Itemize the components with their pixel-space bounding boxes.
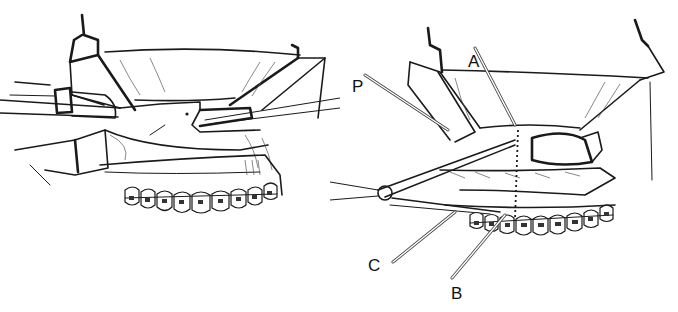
right-panel-left-retractor <box>408 28 480 142</box>
right-panel-maxilla-segments <box>440 132 615 208</box>
label-b: B <box>451 285 462 302</box>
saw-handpiece <box>0 82 120 118</box>
label-p: P <box>352 78 363 95</box>
right-panel-labeled-osteotomy <box>330 0 678 312</box>
label-a: A <box>468 53 479 70</box>
right-panel-right-retractor <box>580 20 664 180</box>
left-retractor <box>70 15 135 110</box>
maxilla-osteotomy <box>105 102 272 170</box>
cheek-retractor <box>15 130 108 185</box>
upper-soft-tissue <box>105 49 300 101</box>
label-c: C <box>368 257 380 274</box>
surgical-illustration: P A C B <box>0 0 678 312</box>
left-panel-drawing <box>0 0 340 312</box>
maxillary-teeth-with-brackets <box>125 183 277 213</box>
left-panel-saw-osteotomy <box>0 0 340 312</box>
vertical-reference-line <box>515 130 518 220</box>
right-panel-drawing <box>330 0 678 312</box>
label-pointers <box>365 48 515 278</box>
